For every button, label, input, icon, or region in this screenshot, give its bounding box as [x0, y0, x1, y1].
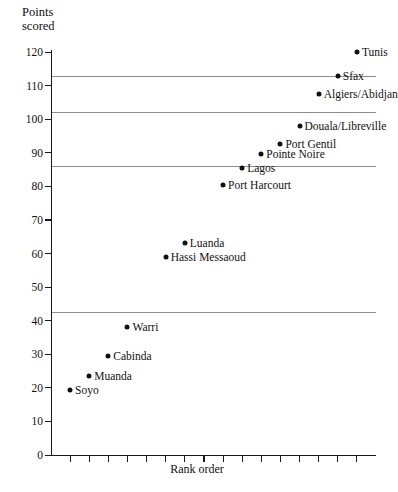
reference-line — [52, 76, 376, 77]
y-axis-tick — [45, 253, 52, 254]
y-axis-tick-label: 50 — [1, 281, 43, 293]
data-point-marker[interactable] — [106, 353, 111, 358]
data-point-marker[interactable] — [278, 142, 283, 147]
x-axis-tick — [89, 455, 90, 462]
data-point-label: Douala/Libreville — [305, 120, 387, 132]
y-axis-tick — [45, 119, 52, 120]
data-point-marker[interactable] — [354, 50, 359, 55]
data-point-label: Lagos — [247, 162, 275, 174]
y-axis-tick — [45, 219, 52, 220]
data-point-marker[interactable] — [87, 374, 92, 379]
y-axis-tick — [45, 52, 52, 53]
x-axis-line — [51, 455, 376, 456]
data-point-label: Cabinda — [113, 350, 151, 362]
y-axis-tick — [45, 85, 52, 86]
data-point-marker[interactable] — [259, 152, 264, 157]
data-point-label: Algiers/Abidjan — [324, 88, 398, 100]
data-point-label: Luanda — [190, 237, 224, 249]
x-axis-tick — [146, 455, 147, 462]
data-point-marker[interactable] — [68, 387, 73, 392]
x-axis-tick — [203, 455, 204, 462]
y-axis-tick-label: 90 — [1, 147, 43, 159]
data-point-marker[interactable] — [316, 91, 321, 96]
x-axis-tick — [356, 455, 357, 462]
x-axis-tick — [242, 455, 243, 462]
data-point-label: Hassi Messaoud — [171, 251, 246, 263]
x-axis-tick — [280, 455, 281, 462]
y-axis-tick-label: 10 — [1, 415, 43, 427]
x-axis-tick — [184, 455, 185, 462]
x-axis-tick — [337, 455, 338, 462]
data-point-marker[interactable] — [125, 325, 130, 330]
data-point-label: Pointe Noire — [266, 148, 324, 160]
y-axis-tick — [45, 421, 52, 422]
y-axis-tick-label: 110 — [1, 80, 43, 92]
data-point-label: Sfax — [343, 70, 364, 82]
y-axis-tick — [45, 455, 52, 456]
data-point-marker[interactable] — [335, 73, 340, 78]
y-axis-tick-label: 80 — [1, 180, 43, 192]
reference-line — [52, 312, 376, 313]
x-axis-tick — [318, 455, 319, 462]
data-point-marker[interactable] — [182, 241, 187, 246]
x-axis-tick — [261, 455, 262, 462]
data-point-marker[interactable] — [163, 254, 168, 259]
data-point-marker[interactable] — [221, 182, 226, 187]
y-axis-tick-label: 20 — [1, 382, 43, 394]
reference-line — [52, 166, 376, 167]
x-axis-tick — [223, 455, 224, 462]
y-axis-tick — [45, 387, 52, 388]
y-axis-tick — [45, 287, 52, 288]
y-axis-tick-label: 0 — [1, 449, 43, 461]
y-axis-tick — [45, 320, 52, 321]
data-point-marker[interactable] — [297, 123, 302, 128]
y-axis-tick-label: 100 — [1, 113, 43, 125]
y-axis-tick-label: 60 — [1, 248, 43, 260]
y-axis-tick-label: 30 — [1, 348, 43, 360]
data-point-label: Warri — [132, 321, 158, 333]
x-axis-title: Rank order — [0, 462, 394, 477]
y-axis-tick — [45, 186, 52, 187]
y-axis-tick-label: 40 — [1, 315, 43, 327]
x-axis-tick — [299, 455, 300, 462]
x-axis-tick — [108, 455, 109, 462]
data-point-label: Muanda — [94, 370, 132, 382]
reference-line — [52, 112, 376, 113]
y-axis-tick-label: 70 — [1, 214, 43, 226]
data-point-label: Soyo — [75, 384, 99, 396]
x-axis-tick — [127, 455, 128, 462]
y-axis-tick — [45, 152, 52, 153]
y-axis-tick-label: 120 — [1, 46, 43, 58]
data-point-marker[interactable] — [240, 165, 245, 170]
x-axis-tick — [70, 455, 71, 462]
x-axis-tick — [165, 455, 166, 462]
data-point-label: Port Harcourt — [228, 179, 291, 191]
y-axis-tick — [45, 354, 52, 355]
data-point-label: Tunis — [362, 46, 388, 58]
